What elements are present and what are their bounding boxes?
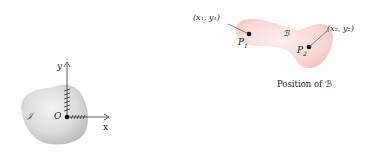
coord2-label: (x₂, y₂) [327, 25, 354, 33]
p1-label: P1 [238, 38, 248, 49]
body-b-label: ℬ [283, 30, 289, 38]
origin-label: O [54, 112, 61, 121]
origin-point [65, 115, 70, 120]
body-b-shape [236, 19, 333, 68]
y-axis-label: y [57, 62, 62, 71]
coord1-label: (x₁, y₁) [193, 14, 220, 22]
p2-label: P2 [297, 46, 307, 57]
reference-body-label: 𝒥 [27, 112, 33, 120]
caption: Position of ℬ [277, 80, 332, 89]
x-axis-label: x [103, 123, 108, 132]
